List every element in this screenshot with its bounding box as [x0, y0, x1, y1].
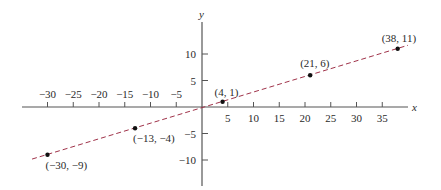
y-tick-label: −5 — [184, 128, 196, 140]
data-points: (−30, −9)(−13, −4)(4, 1)(21, 6)(38, 11) — [45, 32, 416, 172]
x-tick-label: 30 — [351, 112, 363, 124]
point-label: (4, 1) — [215, 86, 239, 99]
x-tick-label: −10 — [142, 88, 160, 100]
data-point — [220, 100, 224, 104]
x-tick-label: 20 — [300, 112, 312, 124]
y-tick-label: −10 — [179, 154, 197, 166]
x-axis-ticks: −30−25−20−15−10−55101520253035 — [39, 88, 388, 124]
x-tick-label: −25 — [65, 88, 83, 100]
x-tick-label: 10 — [248, 112, 260, 124]
point-label: (−30, −9) — [46, 159, 88, 172]
x-tick-label: −15 — [116, 88, 134, 100]
x-tick-label: −20 — [90, 88, 108, 100]
x-tick-label: 5 — [225, 112, 231, 124]
point-label: (−13, −4) — [133, 132, 175, 145]
data-point — [133, 126, 137, 130]
plot-canvas: −30−25−20−15−10−55101520253035 105−5−10 … — [0, 0, 441, 190]
y-tick-label: 5 — [191, 75, 197, 87]
data-point — [396, 47, 400, 51]
y-axis-label: y — [198, 8, 204, 20]
coordinate-plot: −30−25−20−15−10−55101520253035 105−5−10 … — [0, 0, 441, 190]
data-point — [308, 73, 312, 77]
x-tick-label: 25 — [325, 112, 337, 124]
x-tick-label: 35 — [377, 112, 389, 124]
x-tick-label: −5 — [170, 88, 182, 100]
dashed-line — [32, 45, 408, 159]
data-point — [45, 153, 49, 157]
fit-line — [32, 45, 408, 159]
x-axis-label: x — [411, 101, 417, 113]
y-tick-label: 10 — [185, 48, 197, 60]
x-tick-label: 15 — [274, 112, 286, 124]
x-tick-label: −30 — [39, 88, 57, 100]
point-label: (38, 11) — [382, 32, 417, 45]
point-label: (21, 6) — [300, 57, 330, 70]
